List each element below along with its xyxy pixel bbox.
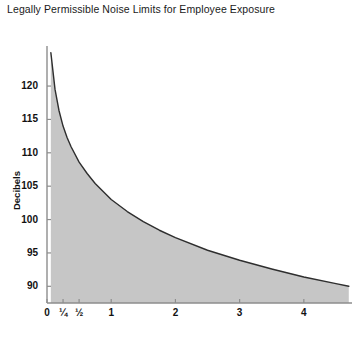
x-tick-label: 1: [96, 308, 126, 318]
x-tick-label: ½: [64, 308, 94, 318]
y-tick-label: 95: [8, 248, 38, 258]
y-tick-label: 90: [8, 281, 38, 291]
plot-area: [0, 0, 359, 338]
y-tick-label: 110: [8, 148, 38, 158]
area-fill: [51, 53, 349, 303]
x-tick-label: 2: [160, 308, 190, 318]
area-fill-group: [51, 53, 349, 303]
y-tick-label: 120: [8, 81, 38, 91]
y-tick-label: 100: [8, 215, 38, 225]
y-tick-label: 105: [8, 181, 38, 191]
noise-limits-chart: Legally Permissible Noise Limits for Emp…: [0, 0, 359, 338]
x-tick-label: 3: [225, 308, 255, 318]
y-tick-label: 115: [8, 114, 38, 124]
x-tick-label: 4: [289, 308, 319, 318]
